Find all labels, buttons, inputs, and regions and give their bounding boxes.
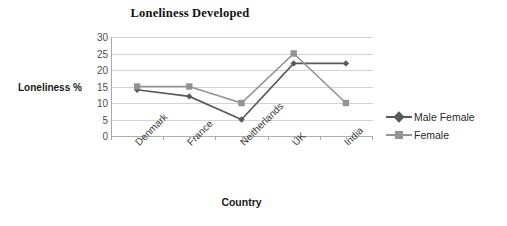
series-line [137,54,346,104]
x-axis-boundary-tick [320,136,321,140]
data-point-marker [343,60,349,66]
chart-title: Loneliness Developed [0,6,380,21]
legend-square-marker-icon [386,129,412,141]
data-point-marker [238,100,244,106]
data-point-marker [343,100,349,106]
x-axis-title: Country [111,196,372,208]
x-axis-tick-mark [294,136,295,140]
series-line [137,63,346,119]
legend-label: Male Female [414,111,475,123]
y-axis-tick-label: 5 [64,114,108,125]
x-axis-boundary-tick [163,136,164,140]
x-axis-boundary-tick [372,136,373,140]
legend-diamond-marker-icon [386,111,412,123]
x-axis-boundary-tick [215,136,216,140]
chart-legend: Male FemaleFemale [386,108,504,144]
legend-label: Female [414,129,449,141]
y-axis-tick-label: 10 [64,98,108,109]
legend-item[interactable]: Male Female [386,108,504,126]
x-axis-tick-mark [189,136,190,140]
chart-container: Loneliness Developed Loneliness % 051015… [0,0,507,226]
y-axis-tick-label: 15 [64,81,108,92]
x-axis-tick-mark [346,136,347,140]
y-axis-tick-label: 25 [64,48,108,59]
data-point-marker [186,93,192,99]
legend-item[interactable]: Female [386,126,504,144]
x-axis-tick-mark [242,136,243,140]
y-axis-tick-label: 0 [64,131,108,142]
y-axis-tick-label: 30 [64,32,108,43]
y-axis-ticks: 051015202530 [60,37,108,136]
data-point-marker [134,83,140,89]
x-axis-tick-mark [137,136,138,140]
x-axis-boundary-tick [111,136,112,140]
data-point-marker [291,50,297,56]
data-point-marker [186,83,192,89]
y-axis-tick-label: 20 [64,65,108,76]
x-axis-boundary-tick [268,136,269,140]
